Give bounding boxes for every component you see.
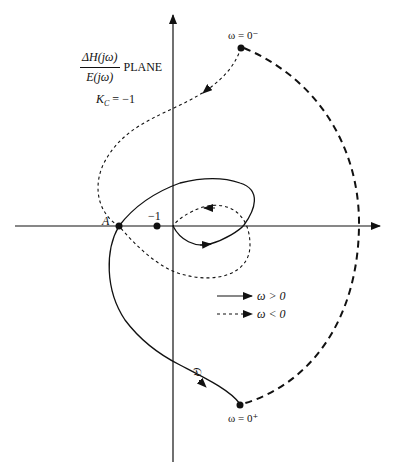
label-minus-one: −1: [148, 210, 161, 222]
label-omega-zero-minus: ω = 0⁻: [228, 30, 258, 41]
gain-symbol: K: [96, 92, 104, 106]
curve-label-D: 𝔇: [193, 366, 202, 378]
plane-title: ΔH(jω) E(jω) PLANE: [80, 50, 162, 85]
label-A: A: [102, 215, 109, 227]
title-numerator: ΔH(jω): [80, 50, 120, 68]
legend-positive-label: ω > 0: [257, 290, 286, 302]
positive-frequency-curve: [109, 178, 254, 404]
gain-value: = −1: [112, 92, 135, 106]
point-A: [116, 223, 123, 230]
title-denominator: E(jω): [86, 68, 113, 85]
point-omega-zero-minus: [238, 45, 245, 52]
point-omega-zero-plus: [237, 402, 244, 409]
point-minus-one: [154, 223, 161, 230]
label-omega-zero-plus: ω = 0⁺: [228, 413, 258, 424]
legend-negative-label: ω < 0: [257, 308, 286, 320]
title-suffix: PLANE: [124, 60, 163, 75]
gain-subscript: C: [104, 99, 109, 108]
nyquist-diagram: [0, 0, 394, 474]
gain-label: KC = −1: [96, 93, 135, 108]
